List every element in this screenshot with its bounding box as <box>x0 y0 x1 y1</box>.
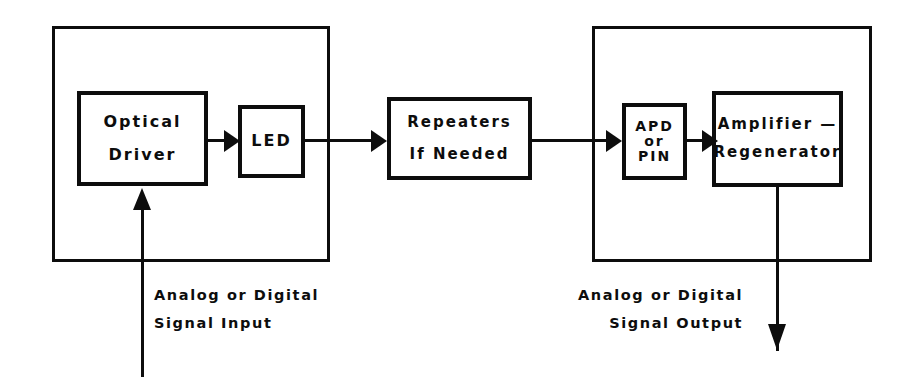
input-signal-line <box>141 208 144 377</box>
detector-label-line3: PIN <box>638 149 671 164</box>
arrowhead-output-icon <box>768 324 786 350</box>
detector-label-line2: or <box>644 134 665 149</box>
optical-driver-label-line2: Driver <box>109 147 177 164</box>
optical-driver-block[interactable]: Optical Driver <box>77 91 208 186</box>
arrowhead-driver-to-led-icon <box>224 130 240 152</box>
input-caption-line1: Analog or Digital <box>154 282 319 310</box>
optical-driver-label-line1: Optical <box>104 114 182 131</box>
repeaters-label-line1: Repeaters <box>407 115 511 131</box>
input-caption-line2: Signal Input <box>154 310 319 338</box>
detector-block[interactable]: APD or PIN <box>622 103 687 180</box>
amplifier-label-line2: Regenerator <box>714 145 842 161</box>
detector-label-line1: APD <box>635 119 674 134</box>
repeaters-block[interactable]: Repeaters If Needed <box>387 97 532 180</box>
output-caption: Analog or Digital Signal Output <box>578 282 743 337</box>
amplifier-label-line1: Amplifier — <box>718 117 838 133</box>
arrowhead-led-to-repeaters-icon <box>371 130 387 152</box>
output-caption-line2: Signal Output <box>578 310 743 338</box>
repeaters-label-line2: If Needed <box>410 147 510 163</box>
output-caption-line1: Analog or Digital <box>578 282 743 310</box>
arrowhead-input-icon <box>133 188 151 210</box>
led-block[interactable]: LED <box>238 105 305 178</box>
input-caption: Analog or Digital Signal Input <box>154 282 319 337</box>
amplifier-regenerator-block[interactable]: Amplifier — Regenerator <box>712 91 843 187</box>
led-label: LED <box>251 133 291 150</box>
block-diagram-canvas: Optical Driver LED Analog or Digital Sig… <box>0 0 919 377</box>
